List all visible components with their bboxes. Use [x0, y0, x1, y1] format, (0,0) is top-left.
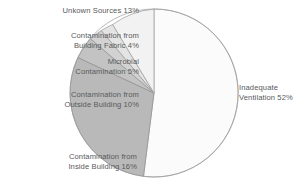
- pie-label-contamination-building-fabric: Contamination from Building Fabric 4%: [14, 31, 139, 51]
- pie-label-contamination-inside-building-line2: Inside Building 16%: [22, 162, 137, 172]
- pie-label-contamination-inside-building-line1: Contamination from: [22, 152, 137, 162]
- pie-slice-inadequate-ventilation[interactable]: [144, 9, 239, 177]
- pie-label-microbial-contamination-line1: Microbial: [8, 57, 139, 67]
- pie-label-contamination-building-fabric-line1: Contamination from: [14, 31, 139, 41]
- pie-label-contamination-outside-building-line1: Contamination from: [0, 90, 139, 100]
- pie-label-microbial-contamination: Microbial Contamination 5%: [8, 57, 139, 77]
- pie-label-microbial-contamination-line2: Contamination 5%: [8, 67, 139, 77]
- pie-label-inadequate-ventilation-line2: Ventilation 52%: [239, 93, 304, 103]
- pie-label-contamination-building-fabric-line2: Building Fabric 4%: [14, 41, 139, 51]
- pie-label-contamination-outside-building: Contamination from Outside Building 10%: [0, 90, 139, 110]
- pie-chart-screenshot: Unkown Sources 13% Contamination from Bu…: [0, 0, 304, 189]
- pie-label-unkown-sources: Unkown Sources 13%: [43, 6, 139, 16]
- pie-label-contamination-inside-building: Contamination from Inside Building 16%: [22, 152, 137, 172]
- pie-label-unkown-sources-line1: Unkown Sources 13%: [43, 6, 139, 16]
- pie-label-contamination-outside-building-line2: Outside Building 10%: [0, 100, 139, 110]
- pie-label-inadequate-ventilation-line1: Inadequate: [239, 83, 304, 93]
- pie-label-inadequate-ventilation: Inadequate Ventilation 52%: [239, 83, 304, 103]
